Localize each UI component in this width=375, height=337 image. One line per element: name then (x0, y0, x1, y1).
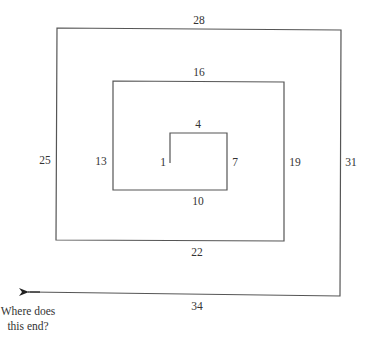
segment-label-16: 16 (193, 66, 205, 78)
segment-label-1: 1 (160, 156, 166, 168)
segment-label-7: 7 (232, 156, 238, 168)
segment-label-4: 4 (195, 118, 201, 130)
question-caption-line2: this end? (7, 320, 48, 332)
segment-label-13: 13 (95, 155, 107, 167)
spiral-diagram: 1 4 7 10 13 16 19 22 25 28 31 34 Where d… (0, 0, 375, 337)
segment-label-22: 22 (191, 246, 203, 258)
segment-label-19: 19 (289, 156, 301, 168)
segment-label-25: 25 (39, 154, 51, 166)
segment-label-28: 28 (193, 14, 205, 26)
segment-label-34: 34 (191, 300, 203, 312)
segment-label-10: 10 (192, 195, 204, 207)
question-caption-line1: Where does (1, 305, 56, 317)
segment-label-31: 31 (345, 156, 357, 168)
